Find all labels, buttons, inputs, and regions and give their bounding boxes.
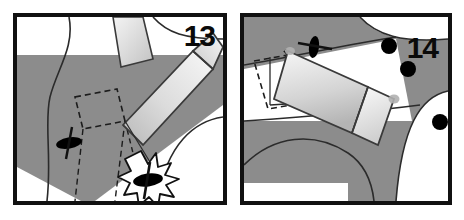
open-area-white-bottom (244, 183, 348, 201)
bollard-dot (432, 114, 448, 130)
contact-smudge (285, 47, 295, 55)
contact-smudge (389, 95, 400, 104)
panel-number-14: 14 (407, 33, 438, 63)
panel-number-13: 13 (184, 21, 215, 51)
bollard-dot (381, 38, 397, 54)
panel-14: 14 (240, 13, 452, 205)
figure-canvas: 13 (0, 0, 464, 220)
panel-13: 13 (13, 13, 227, 205)
